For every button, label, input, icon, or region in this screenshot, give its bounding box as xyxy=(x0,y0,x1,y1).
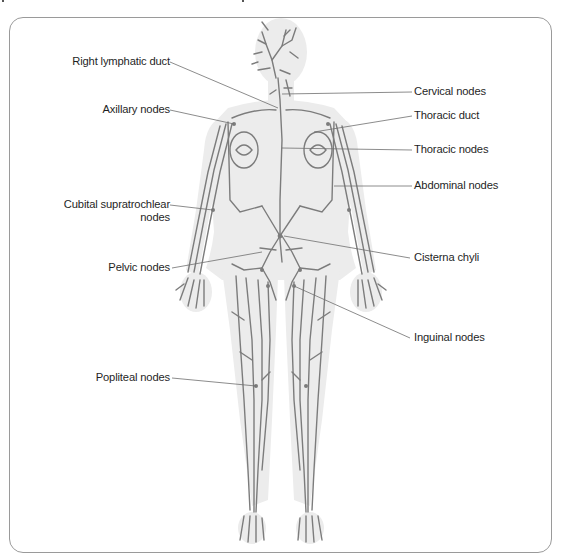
label-axillary-nodes: Axillary nodes xyxy=(66,103,170,116)
label-popliteal-nodes: Popliteal nodes xyxy=(56,371,170,384)
label-cubital-supratrochlear-nodes-line2: nodes xyxy=(36,211,170,224)
label-cubital-supratrochlear-nodes: Cubital supratrochlear xyxy=(36,198,170,211)
label-thoracic-nodes: Thoracic nodes xyxy=(414,143,488,156)
lymphatic-system-figure xyxy=(0,0,563,559)
label-cervical-nodes: Cervical nodes xyxy=(414,85,486,98)
label-inguinal-nodes: Inguinal nodes xyxy=(414,331,485,344)
label-right-lymphatic-duct: Right lymphatic duct xyxy=(66,55,170,68)
label-thoracic-duct: Thoracic duct xyxy=(414,109,479,122)
label-abdominal-nodes: Abdominal nodes xyxy=(414,179,498,192)
label-pelvic-nodes: Pelvic nodes xyxy=(66,261,170,274)
body-silhouette xyxy=(180,18,382,544)
leader-cervical-nodes xyxy=(282,92,412,94)
label-cisterna-chyli: Cisterna chyli xyxy=(414,251,479,264)
